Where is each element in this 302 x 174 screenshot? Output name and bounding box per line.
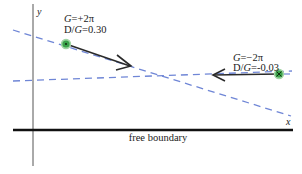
free-boundary-label: free boundary — [129, 132, 188, 143]
vortex-left-G-label: G=+2π — [64, 13, 95, 24]
vortex-diagram: y x free boundary G=+2π D/G=0.30 G=−2π D… — [0, 0, 302, 174]
dashed-trajectory-descending — [13, 30, 291, 116]
y-axis-label: y — [36, 6, 42, 17]
vortex-right-ratio-label: D/G=-0.03 — [233, 62, 279, 73]
vortex-left-ratio-label: D/G=0.30 — [64, 24, 106, 35]
x-axis-label: x — [285, 116, 291, 127]
vortex-left-marker-icon — [62, 40, 71, 49]
